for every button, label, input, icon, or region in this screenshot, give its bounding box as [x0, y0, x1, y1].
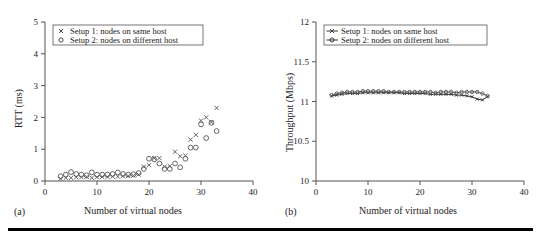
y-tick-label: 5 [34, 17, 39, 27]
panel-b: 1010.51111.512010203040Setup 1: nodes on… [271, 0, 541, 242]
series-2 [58, 120, 219, 178]
bottom-divider-rule [8, 228, 533, 231]
y-tick-label: 10 [300, 176, 310, 186]
series-2 [330, 89, 489, 97]
panel-b-xaxis-title: Number of virtual nodes [293, 205, 523, 216]
x-tick-label: 40 [249, 187, 259, 197]
x-tick-label: 30 [197, 187, 207, 197]
legend: Setup 1: nodes on same hostSetup 2: node… [324, 25, 487, 45]
panel-a-caption: (a) [14, 206, 25, 217]
x-tick-label: 0 [314, 187, 319, 197]
y-tick-label: 1 [34, 144, 39, 154]
x-tick-label: 20 [416, 187, 426, 197]
y-tick-label: 4 [34, 49, 39, 59]
x-tick-label: 30 [468, 187, 478, 197]
x-tick-label: 0 [43, 187, 48, 197]
series-1 [59, 106, 219, 181]
x-tick-label: 20 [145, 187, 155, 197]
y-tick-label: 2 [34, 113, 39, 123]
panel-a: 012345010203040Setup 1: nodes on same ho… [0, 0, 270, 242]
legend-label: Setup 2: nodes on different host [70, 35, 179, 45]
panel-a-xaxis-title: Number of virtual nodes [18, 205, 248, 216]
x-tick-label: 10 [93, 187, 103, 197]
y-tick-label: 0 [34, 176, 39, 186]
figure-container: 012345010203040Setup 1: nodes on same ho… [0, 0, 541, 242]
x-tick-label: 10 [364, 187, 374, 197]
legend: Setup 1: nodes on same hostSetup 2: node… [53, 25, 203, 45]
y-tick-label: 12 [300, 17, 309, 27]
y-tick-label: 10.5 [293, 136, 309, 146]
x-tick-label: 40 [520, 187, 530, 197]
y-tick-label: 3 [34, 81, 39, 91]
panel-b-yaxis-title: Throughput (Mbps) [284, 73, 295, 152]
y-tick-label: 11 [300, 97, 309, 107]
panel-a-yaxis-title: RTT (ms) [13, 89, 24, 128]
y-tick-label: 11.5 [294, 57, 310, 67]
panel-b-caption: (b) [285, 206, 297, 217]
legend-label: Setup 2: nodes on different host [341, 35, 450, 45]
